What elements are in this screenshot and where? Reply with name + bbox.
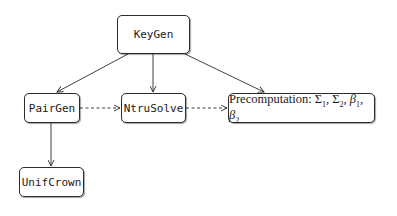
node-ntrusolve: NtruSolve: [121, 93, 186, 123]
node-pairgen-label: PairGen: [29, 102, 75, 115]
node-keygen: KeyGen: [117, 15, 190, 54]
flow-diagram: KeyGen PairGen NtruSolve Precomputation:…: [0, 0, 397, 216]
node-pairgen: PairGen: [24, 93, 80, 123]
edge-keygen-pairgen: [57, 54, 128, 92]
node-ntrusolve-label: NtruSolve: [124, 102, 184, 115]
precomputation-prefix: Precomputation:: [229, 92, 315, 106]
sigma-symbol: Σ: [315, 92, 322, 106]
sigma-symbol: Σ: [332, 92, 339, 106]
node-precomputation: Precomputation: Σ1, Σ2, β1, β2: [228, 93, 375, 123]
node-unifcrown: UnifCrown: [19, 167, 84, 197]
node-unifcrown-label: UnifCrown: [22, 176, 82, 189]
node-keygen-label: KeyGen: [134, 28, 174, 41]
separator: ,: [360, 92, 363, 106]
subscript: 2: [235, 116, 239, 125]
edge-keygen-precomputation: [185, 54, 264, 92]
node-precomputation-label: Precomputation: Σ1, Σ2, β1, β2: [229, 92, 374, 125]
